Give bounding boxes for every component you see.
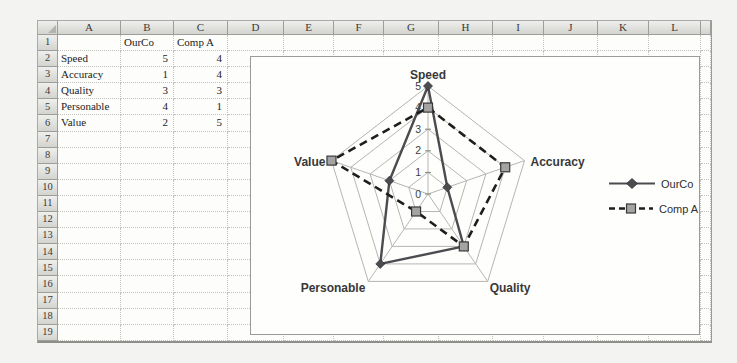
- column-header-I[interactable]: I: [493, 21, 544, 35]
- cell-A13[interactable]: [58, 228, 121, 244]
- cell-H1[interactable]: [439, 35, 493, 51]
- cell-B11[interactable]: [121, 196, 174, 212]
- radar-chart-object[interactable]: 012345SpeedAccuracyQualityPersonableValu…: [250, 56, 700, 335]
- cell-A8[interactable]: [58, 148, 121, 164]
- cell-C18[interactable]: [174, 309, 228, 325]
- cell-C7[interactable]: [174, 132, 228, 148]
- cell-partial-5[interactable]: [701, 99, 711, 115]
- cell-C17[interactable]: [174, 293, 228, 309]
- cell-partial-19[interactable]: [701, 325, 711, 341]
- column-header-C[interactable]: C: [174, 21, 228, 35]
- cell-A14[interactable]: [58, 244, 121, 260]
- column-header-A[interactable]: A: [58, 21, 121, 35]
- cell-C19[interactable]: [174, 325, 228, 341]
- cell-partial-10[interactable]: [701, 180, 711, 196]
- cell-A10[interactable]: [58, 180, 121, 196]
- cell-A4[interactable]: Quality: [58, 83, 121, 99]
- cell-C8[interactable]: [174, 148, 228, 164]
- cell-B18[interactable]: [121, 309, 174, 325]
- cell-C16[interactable]: [174, 276, 228, 292]
- cell-partial-12[interactable]: [701, 212, 711, 228]
- cell-A5[interactable]: Personable: [58, 99, 121, 115]
- row-header-1[interactable]: 1: [38, 35, 58, 51]
- column-header-G[interactable]: G: [384, 21, 439, 35]
- cell-J1[interactable]: [544, 35, 598, 51]
- cell-B3[interactable]: 1: [121, 67, 174, 83]
- row-header-15[interactable]: 15: [38, 260, 58, 276]
- row-header-12[interactable]: 12: [38, 212, 58, 228]
- select-all-corner[interactable]: [38, 21, 58, 35]
- row-header-2[interactable]: 2: [38, 51, 58, 67]
- column-header-F[interactable]: F: [334, 21, 384, 35]
- cell-A6[interactable]: Value: [58, 115, 121, 131]
- cell-C12[interactable]: [174, 212, 228, 228]
- cell-B7[interactable]: [121, 132, 174, 148]
- column-header-D[interactable]: D: [228, 21, 284, 35]
- cell-B13[interactable]: [121, 228, 174, 244]
- row-header-9[interactable]: 9: [38, 164, 58, 180]
- cell-partial-14[interactable]: [701, 244, 711, 260]
- row-header-18[interactable]: 18: [38, 309, 58, 325]
- cell-partial-4[interactable]: [701, 83, 711, 99]
- row-header-6[interactable]: 6: [38, 115, 58, 131]
- cell-B16[interactable]: [121, 276, 174, 292]
- cell-E1[interactable]: [284, 35, 334, 51]
- cell-A12[interactable]: [58, 212, 121, 228]
- cell-I1[interactable]: [493, 35, 544, 51]
- cell-C10[interactable]: [174, 180, 228, 196]
- cell-partial-15[interactable]: [701, 260, 711, 276]
- cell-B5[interactable]: 4: [121, 99, 174, 115]
- row-header-7[interactable]: 7: [38, 132, 58, 148]
- cell-C3[interactable]: 4: [174, 67, 228, 83]
- cell-partial-6[interactable]: [701, 115, 711, 131]
- row-header-19[interactable]: 19: [38, 325, 58, 341]
- row-header-8[interactable]: 8: [38, 148, 58, 164]
- cell-B14[interactable]: [121, 244, 174, 260]
- cell-A19[interactable]: [58, 325, 121, 341]
- cell-partial-18[interactable]: [701, 309, 711, 325]
- cell-A17[interactable]: [58, 293, 121, 309]
- cell-G1[interactable]: [384, 35, 439, 51]
- row-header-13[interactable]: 13: [38, 228, 58, 244]
- cell-partial-11[interactable]: [701, 196, 711, 212]
- cell-A2[interactable]: Speed: [58, 51, 121, 67]
- cell-C6[interactable]: 5: [174, 115, 228, 131]
- cell-A3[interactable]: Accuracy: [58, 67, 121, 83]
- column-header-L[interactable]: L: [649, 21, 701, 35]
- cell-B10[interactable]: [121, 180, 174, 196]
- cell-C2[interactable]: 4: [174, 51, 228, 67]
- cell-B12[interactable]: [121, 212, 174, 228]
- cell-C9[interactable]: [174, 164, 228, 180]
- cell-A9[interactable]: [58, 164, 121, 180]
- cell-K1[interactable]: [598, 35, 649, 51]
- cell-partial-16[interactable]: [701, 276, 711, 292]
- cell-partial-1[interactable]: [701, 35, 711, 51]
- cell-C11[interactable]: [174, 196, 228, 212]
- cell-A11[interactable]: [58, 196, 121, 212]
- legend-item-comp-a[interactable]: Comp A: [608, 202, 698, 215]
- row-header-17[interactable]: 17: [38, 293, 58, 309]
- row-header-5[interactable]: 5: [38, 99, 58, 115]
- cell-C14[interactable]: [174, 244, 228, 260]
- cell-partial-7[interactable]: [701, 132, 711, 148]
- cell-B4[interactable]: 3: [121, 83, 174, 99]
- row-header-3[interactable]: 3: [38, 67, 58, 83]
- column-header-K[interactable]: K: [598, 21, 649, 35]
- row-header-10[interactable]: 10: [38, 180, 58, 196]
- cell-A18[interactable]: [58, 309, 121, 325]
- cell-B8[interactable]: [121, 148, 174, 164]
- column-header-E[interactable]: E: [284, 21, 334, 35]
- row-header-11[interactable]: 11: [38, 196, 58, 212]
- cell-B17[interactable]: [121, 293, 174, 309]
- cell-partial-13[interactable]: [701, 228, 711, 244]
- row-header-4[interactable]: 4: [38, 83, 58, 99]
- cell-B1[interactable]: OurCo: [121, 35, 174, 51]
- cell-C5[interactable]: 1: [174, 99, 228, 115]
- cell-C15[interactable]: [174, 260, 228, 276]
- cell-D1[interactable]: [228, 35, 284, 51]
- cell-A1[interactable]: [58, 35, 121, 51]
- column-header-partial[interactable]: [701, 21, 711, 35]
- cell-B19[interactable]: [121, 325, 174, 341]
- legend-item-ourco[interactable]: OurCo: [608, 177, 693, 190]
- cell-partial-2[interactable]: [701, 51, 711, 67]
